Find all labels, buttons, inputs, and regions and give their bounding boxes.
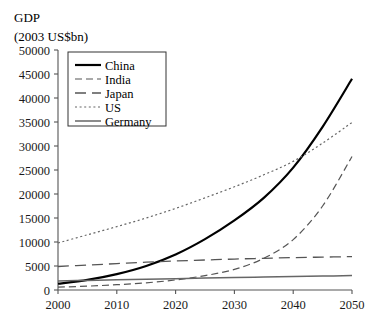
- y-axis-ticks: 0500010000150002000025000300003500040000…: [19, 44, 58, 298]
- chart-subtitle: (2003 US$bn): [14, 29, 88, 44]
- x-tick-label: 2030: [222, 298, 247, 312]
- legend-label-us: US: [105, 101, 121, 115]
- legend-label-japan: Japan: [105, 87, 134, 101]
- y-tick-label: 0: [44, 284, 50, 298]
- x-axis-ticks: 200020102020203020402050: [46, 290, 365, 312]
- x-tick-label: 2020: [163, 298, 188, 312]
- y-tick-label: 45000: [19, 68, 50, 82]
- y-tick-label: 35000: [19, 116, 50, 130]
- series-line-japan: [58, 257, 352, 267]
- series-line-india: [58, 157, 352, 288]
- chart-legend: ChinaIndiaJapanUSGermany: [68, 52, 166, 129]
- y-tick-label: 5000: [25, 260, 50, 274]
- x-tick-label: 2000: [46, 298, 71, 312]
- x-tick-label: 2040: [281, 298, 306, 312]
- gdp-line-chart: GDP (2003 US$bn) 05000100001500020000250…: [0, 0, 385, 321]
- y-tick-label: 25000: [19, 164, 50, 178]
- y-tick-label: 10000: [19, 236, 50, 250]
- legend-label-china: China: [105, 59, 135, 73]
- y-tick-label: 40000: [19, 92, 50, 106]
- legend-label-germany: Germany: [105, 115, 152, 129]
- y-tick-label: 30000: [19, 140, 50, 154]
- chart-title: GDP: [14, 10, 40, 25]
- chart-canvas: GDP (2003 US$bn) 05000100001500020000250…: [0, 0, 385, 321]
- y-tick-label: 20000: [19, 188, 50, 202]
- legend-label-india: India: [105, 73, 131, 87]
- y-tick-label: 15000: [19, 212, 50, 226]
- y-tick-label: 50000: [19, 44, 50, 58]
- x-tick-label: 2050: [340, 298, 365, 312]
- x-tick-label: 2010: [104, 298, 129, 312]
